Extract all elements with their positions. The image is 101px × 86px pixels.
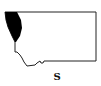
map-label: S	[52, 72, 62, 82]
state-map	[0, 0, 101, 86]
